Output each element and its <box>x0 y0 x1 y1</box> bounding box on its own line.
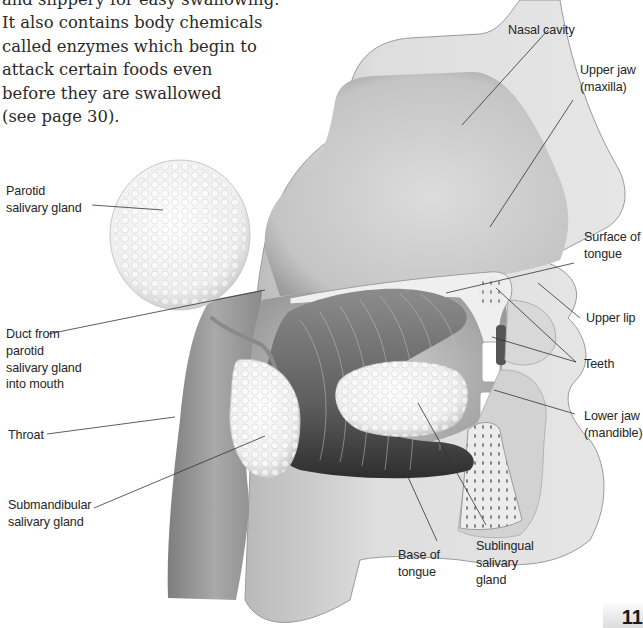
label-nasal-cavity: Nasal cavity <box>508 22 575 39</box>
label-sublingual-gland: Sublingual salivary gland <box>476 538 534 588</box>
label-surface-of-tongue: Surface of tongue <box>584 229 640 263</box>
label-throat: Throat <box>8 427 44 444</box>
label-base-of-tongue: Base of tongue <box>398 547 440 581</box>
label-duct: Duct from parotid salivary gland into mo… <box>6 326 82 393</box>
label-upper-jaw: Upper jaw (maxilla) <box>580 62 636 96</box>
mouth-anatomy-illustration <box>0 0 643 628</box>
label-teeth: Teeth <box>584 356 614 373</box>
label-parotid-gland: Parotid salivary gland <box>6 183 82 217</box>
label-submandibular-gland: Submandibular salivary gland <box>8 497 91 531</box>
label-upper-lip: Upper lip <box>586 310 636 327</box>
page-number: 11 <box>603 601 643 628</box>
label-lower-jaw: Lower jaw (mandible) <box>584 408 643 442</box>
